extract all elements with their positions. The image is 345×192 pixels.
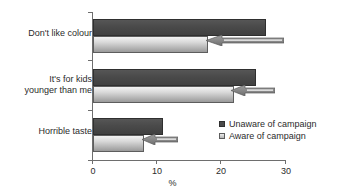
category-label-2: Horrible taste — [0, 126, 92, 137]
bar-chart: Don't like colour It's for kids younger … — [0, 0, 345, 192]
bar-unaware-2 — [93, 118, 163, 135]
x-axis-tick-0 — [92, 160, 93, 164]
x-axis-label-30: 30 — [274, 166, 298, 176]
bar-aware-0 — [93, 36, 208, 53]
legend-swatch-aware-icon — [219, 133, 225, 139]
x-axis-tick-10 — [156, 160, 157, 164]
x-axis-label-0: 0 — [81, 166, 105, 176]
legend-label-unaware: Unaware of campaign — [229, 118, 317, 130]
x-axis-label-20: 20 — [209, 166, 233, 176]
bar-aware-2 — [93, 135, 144, 152]
x-axis-tick-30 — [285, 160, 286, 164]
chart-legend: Unaware of campaign Aware of campaign — [219, 118, 317, 142]
bar-unaware-0 — [93, 19, 266, 36]
annotation-arrow-2 — [142, 134, 178, 145]
legend-label-aware: Aware of campaign — [229, 130, 306, 142]
bar-unaware-1 — [93, 69, 256, 86]
annotation-arrow-1 — [231, 85, 275, 96]
x-axis-label-10: 10 — [145, 166, 169, 176]
x-axis-line — [92, 160, 286, 161]
legend-item-unaware: Unaware of campaign — [219, 118, 317, 130]
x-axis-title: % — [0, 178, 345, 188]
category-label-1: It's for kids younger than me — [0, 74, 92, 96]
x-axis-tick-20 — [220, 160, 221, 164]
legend-swatch-unaware-icon — [219, 121, 225, 127]
category-label-0: Don't like colour — [0, 28, 92, 39]
bar-aware-1 — [93, 86, 234, 103]
legend-item-aware: Aware of campaign — [219, 130, 317, 142]
annotation-arrow-0 — [206, 35, 284, 46]
